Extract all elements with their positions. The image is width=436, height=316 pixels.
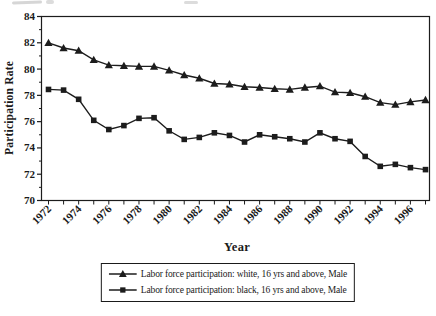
x-tick-label: 1988 [271, 202, 295, 226]
x-tick-label: 1992 [331, 202, 355, 226]
y-tick-label: 72 [24, 168, 36, 180]
square-marker [227, 133, 233, 139]
y-tick-label: 84 [24, 10, 36, 22]
square-marker [91, 118, 97, 124]
x-tick-label: 1994 [361, 202, 385, 226]
series-line [49, 43, 426, 105]
legend-label: Labor force participation: black, 16 yrs… [141, 285, 347, 295]
x-tick-label: 1990 [301, 202, 325, 226]
x-axis-title: Year [224, 240, 250, 255]
cropped-caption-fragment [184, 1, 198, 4]
square-marker [61, 87, 67, 93]
square-marker [197, 135, 203, 141]
square-marker [393, 162, 399, 168]
triangle-marker [90, 56, 98, 63]
triangle-marker [44, 39, 52, 46]
legend-item-white: Labor force participation: white, 16 yrs… [109, 266, 347, 282]
square-marker [377, 164, 383, 170]
square-marker [257, 132, 263, 138]
square-marker [136, 116, 142, 122]
square-marker [302, 139, 308, 145]
square-marker [272, 134, 278, 140]
square-marker [106, 127, 112, 133]
x-tick-label: 1980 [150, 202, 174, 226]
x-tick-label: 1984 [210, 202, 234, 226]
x-tick-label: 1976 [90, 202, 114, 226]
x-tick-label: 1996 [391, 202, 415, 226]
square-marker [151, 115, 157, 121]
legend-label: Labor force participation: white, 16 yrs… [141, 269, 347, 279]
square-marker [76, 97, 82, 103]
y-tick-label: 82 [24, 36, 36, 48]
series-triangle [44, 39, 429, 108]
x-tick-label: 1986 [240, 202, 264, 226]
square-marker [362, 154, 368, 160]
y-tick-label: 80 [24, 63, 36, 75]
square-marker [120, 287, 125, 292]
y-tick-label: 76 [24, 115, 36, 127]
triangle-marker [421, 96, 429, 103]
square-marker [347, 139, 353, 145]
chart-legend: Labor force participation: white, 16 yrs… [101, 263, 355, 302]
square-marker [166, 128, 172, 134]
square-marker [332, 136, 338, 142]
triangle-marker [316, 82, 324, 89]
legend-item-black: Labor force participation: black, 16 yrs… [109, 282, 347, 298]
legend-square-icon [109, 284, 137, 296]
square-marker [317, 130, 323, 136]
square-marker [121, 123, 127, 129]
series-line [49, 89, 426, 169]
scanned-figure-page: 7072747678808284197219741976197819801982… [0, 0, 436, 316]
x-tick-label: 1974 [60, 202, 84, 226]
plot-frame [42, 17, 430, 201]
y-axis-title: Participation Rate [3, 61, 15, 155]
line-chart: 7072747678808284197219741976197819801982… [0, 0, 436, 260]
square-marker [242, 139, 248, 145]
y-tick-label: 74 [24, 141, 36, 153]
x-tick-label: 1982 [180, 202, 204, 226]
square-marker [423, 167, 429, 173]
square-marker [212, 130, 218, 136]
square-marker [408, 165, 414, 171]
y-tick-label: 70 [24, 194, 36, 206]
square-marker [46, 87, 52, 93]
y-tick-label: 78 [24, 89, 36, 101]
x-tick-label: 1978 [120, 202, 144, 226]
legend-triangle-icon [109, 268, 137, 280]
square-marker [181, 137, 187, 143]
cropped-caption-fragment [46, 0, 54, 4]
square-marker [287, 136, 293, 142]
